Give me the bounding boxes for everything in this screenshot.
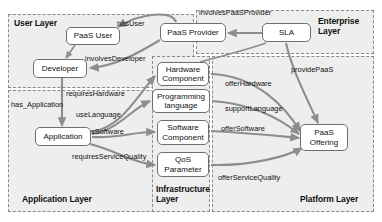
layer-label-infrastructure: Infrastructure Layer (156, 184, 210, 204)
node-software-component[interactable]: Software Component (157, 120, 209, 145)
relation-label-requires-hardware: requiresHardware (66, 90, 125, 98)
relation-label-has-user: hasUser (117, 20, 145, 28)
relation-label-involves-paas-provider: involvesPaaSProvider (199, 9, 271, 17)
node-sla[interactable]: SLA (262, 23, 311, 42)
node-paas-user[interactable]: PaaS User (66, 27, 120, 45)
relation-label-support-language: supportLanguage (225, 105, 283, 113)
relation-label-has-application: has_Application (11, 101, 63, 109)
node-application[interactable]: Application (35, 127, 91, 146)
layer-label-user: User Layer (14, 18, 57, 28)
relation-label-requires-service-quality: requiresServiceQuality (72, 153, 146, 161)
relation-label-offer-service-quality: offerServiceQuality (218, 174, 280, 182)
node-paas-offering[interactable]: PaaS Offering (300, 124, 348, 151)
layer-label-enterprise: Enterprise Layer (318, 16, 359, 36)
relation-label-use-language: useLanguage (76, 111, 121, 119)
node-qos-parameter[interactable]: QoS Parameter (157, 152, 209, 177)
node-programming-language[interactable]: Programming language (152, 89, 210, 113)
relation-label-involves-developer: involvesDeveloper (85, 55, 145, 63)
node-developer[interactable]: Developer (33, 59, 87, 78)
layer-label-application: Application Layer (22, 194, 92, 204)
relation-label-offer-hardware: offerHardware (225, 80, 272, 88)
node-hardware-component[interactable]: Hardware Component (157, 62, 209, 86)
node-paas-provider[interactable]: PaaS Provider (160, 23, 226, 42)
diagram-canvas: User Layer Enterprise Layer Application … (0, 0, 382, 222)
relation-label-offer-software: offerSoftware (221, 125, 265, 133)
relation-label-provide-paas: providePaaS (291, 66, 333, 74)
layer-label-platform: Platform Layer (300, 194, 358, 204)
